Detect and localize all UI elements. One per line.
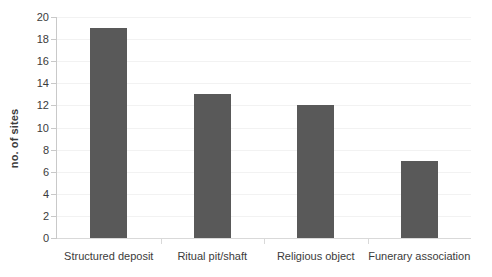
y-axis-tick-mark — [51, 194, 56, 195]
x-axis-tick-mark — [264, 239, 265, 244]
x-axis-tick-mark — [368, 239, 369, 244]
y-axis-tick-mark — [51, 216, 56, 217]
bar — [297, 105, 334, 238]
y-axis-tick-label: 8 — [27, 144, 49, 156]
y-axis-tick-mark — [51, 17, 56, 18]
x-axis-tick-mark — [161, 239, 162, 244]
bar — [401, 161, 438, 238]
y-axis-tick-mark — [51, 83, 56, 84]
y-axis-tick-label: 12 — [27, 99, 49, 111]
x-axis-category-label: Ritual pit/shaft — [161, 250, 265, 262]
x-axis-category-label: Structured deposit — [57, 250, 161, 262]
y-axis-tick-mark — [51, 238, 56, 239]
y-axis-tick-label: 14 — [27, 77, 49, 89]
y-axis-tick-mark — [51, 128, 56, 129]
gridline — [57, 17, 471, 18]
x-axis-category-label: Funerary association — [368, 250, 472, 262]
x-axis-category-label: Religious object — [264, 250, 368, 262]
bar-chart: no. of sites 02468101214161820 Structure… — [0, 0, 492, 277]
y-axis-tick-mark — [51, 150, 56, 151]
y-axis-tick-mark — [51, 39, 56, 40]
y-axis-tick-label: 18 — [27, 33, 49, 45]
y-axis-tick-label: 2 — [27, 210, 49, 222]
y-axis-tick-label: 4 — [27, 188, 49, 200]
y-axis-tick-label: 20 — [27, 11, 49, 23]
y-axis-tick-label: 16 — [27, 55, 49, 67]
y-axis-tick-label: 10 — [27, 122, 49, 134]
y-axis-tick-labels: 02468101214161820 — [23, 0, 49, 277]
y-axis-tick-label: 6 — [27, 166, 49, 178]
y-axis-tick-label: 0 — [27, 232, 49, 244]
plot-area — [57, 17, 471, 238]
bar — [194, 94, 231, 238]
y-axis-tick-mark — [51, 61, 56, 62]
y-axis-tick-mark — [51, 172, 56, 173]
y-axis-tick-mark — [51, 105, 56, 106]
bar — [90, 28, 127, 238]
